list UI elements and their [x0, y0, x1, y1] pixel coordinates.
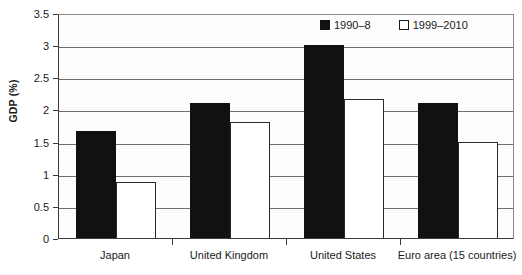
- y-axis-tick-mark: [53, 239, 58, 240]
- plot-area: [58, 14, 514, 239]
- bar: [304, 45, 344, 238]
- legend-label: 1990–8: [334, 19, 371, 31]
- bar: [190, 103, 230, 238]
- y-axis-tick-label: 2: [3, 104, 49, 116]
- bar: [116, 182, 156, 238]
- y-axis-tick-label: 3.5: [3, 8, 49, 20]
- bar-chart: GDP (%) 00.511.522.533.5 JapanUnited Kin…: [0, 0, 522, 275]
- legend: 1990–81999–2010: [320, 19, 468, 31]
- y-axis-tick-mark: [53, 175, 58, 176]
- x-axis-category-label: United Kingdom: [190, 249, 268, 261]
- y-axis-tick-mark: [53, 46, 58, 47]
- y-axis-tick-mark: [53, 78, 58, 79]
- bar-group: [59, 15, 173, 238]
- y-axis-tick-mark: [53, 110, 58, 111]
- category-divider: [172, 239, 173, 245]
- bar: [230, 122, 270, 238]
- y-axis-tick-label: 0.5: [3, 201, 49, 213]
- x-axis-category-label: United States: [310, 249, 376, 261]
- x-axis-category-label: Japan: [100, 249, 130, 261]
- y-axis-tick-mark: [53, 207, 58, 208]
- bar: [76, 131, 116, 238]
- bar: [344, 99, 384, 239]
- category-divider: [400, 239, 401, 245]
- y-axis-tick-label: 3: [3, 40, 49, 52]
- y-axis-tick-mark: [53, 14, 58, 15]
- bar: [458, 142, 498, 238]
- bar-group: [173, 15, 287, 238]
- bar: [418, 103, 458, 238]
- legend-item: 1999–2010: [399, 19, 468, 31]
- y-axis-tick-label: 0: [3, 233, 49, 245]
- y-axis-tick-label: 1: [3, 169, 49, 181]
- x-axis-category-label: Euro area (15 countries): [398, 249, 517, 261]
- bar-group: [401, 15, 515, 238]
- y-axis-tick-label: 2.5: [3, 72, 49, 84]
- legend-swatch-icon: [320, 20, 330, 30]
- y-axis-tick-mark: [53, 143, 58, 144]
- legend-item: 1990–8: [320, 19, 371, 31]
- bar-group: [287, 15, 401, 238]
- legend-swatch-icon: [399, 20, 409, 30]
- y-axis-tick-label: 1.5: [3, 137, 49, 149]
- category-divider: [286, 239, 287, 245]
- legend-label: 1999–2010: [413, 19, 468, 31]
